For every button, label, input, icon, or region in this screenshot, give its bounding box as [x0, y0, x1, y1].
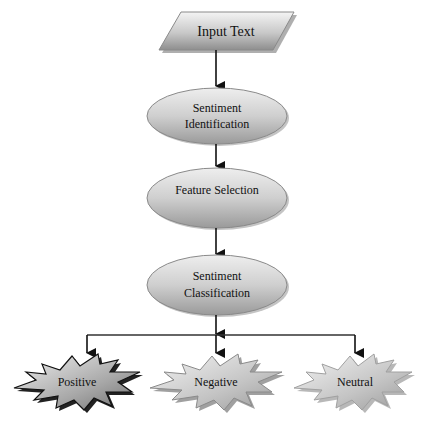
positive-label: Positive — [58, 375, 97, 389]
neutral-output-node: Neutral — [294, 354, 415, 413]
sentiment-classification-node: Sentiment Classification — [147, 255, 289, 317]
step3-line1: Sentiment — [193, 269, 242, 283]
step2-line1: Feature Selection — [175, 183, 259, 197]
feature-selection-node: Feature Selection — [147, 168, 289, 230]
flowchart-canvas: Input Text Sentiment Identification Feat… — [0, 0, 421, 425]
step1-line2: Identification — [185, 117, 250, 131]
negative-label: Negative — [194, 375, 237, 389]
step1-line1: Sentiment — [193, 101, 242, 115]
input-text-node: Input Text — [159, 12, 297, 53]
sentiment-identification-node: Sentiment Identification — [147, 88, 289, 146]
step3-line2: Classification — [184, 286, 250, 300]
positive-output-node: Positive — [14, 354, 143, 413]
neutral-label: Neutral — [337, 375, 374, 389]
input-text-label: Input Text — [197, 24, 255, 39]
negative-output-node: Negative — [150, 354, 285, 413]
